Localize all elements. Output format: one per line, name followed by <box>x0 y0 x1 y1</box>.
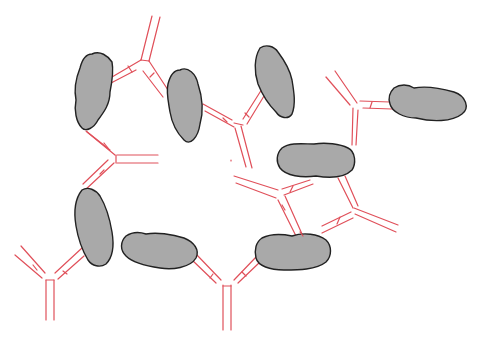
antibody-4 <box>326 71 392 145</box>
antigen-3 <box>255 46 294 118</box>
antibody-5 <box>234 176 313 236</box>
antigen-2 <box>167 69 202 142</box>
antigen-1 <box>75 53 113 130</box>
antibody-2 <box>203 89 264 168</box>
antibody-8 <box>191 254 260 330</box>
antigen-7 <box>122 233 198 269</box>
antibody-6 <box>322 176 398 233</box>
antigen-8 <box>255 234 330 270</box>
antibody-3 <box>83 131 158 191</box>
immune-complex-diagram <box>0 0 488 344</box>
antigen-4 <box>389 85 466 121</box>
antigen-6 <box>75 188 113 266</box>
antibody-7 <box>15 246 84 320</box>
antigen-5 <box>277 143 354 177</box>
antibody-1 <box>111 16 168 97</box>
